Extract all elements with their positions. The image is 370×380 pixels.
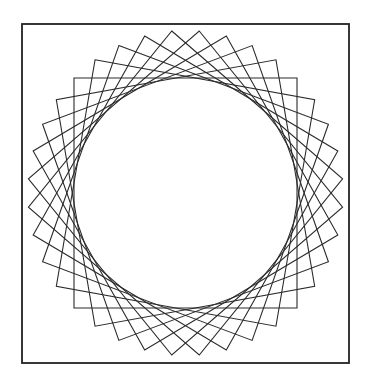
rotated-square-80deg: [56, 60, 314, 326]
rotated-square-10deg: [56, 60, 314, 326]
rotated-squares-group: [28, 31, 342, 355]
rotated-squares-diagram: [0, 0, 370, 380]
outer-frame: [22, 24, 349, 363]
rotated-square-0deg: [74, 78, 297, 308]
rotated-square-50deg: [28, 31, 342, 355]
rotated-square-60deg: [33, 36, 338, 350]
rotated-square-20deg: [43, 46, 329, 341]
rotated-square-40deg: [28, 31, 342, 355]
rotated-square-30deg: [33, 36, 338, 350]
rotated-square-70deg: [43, 46, 329, 341]
